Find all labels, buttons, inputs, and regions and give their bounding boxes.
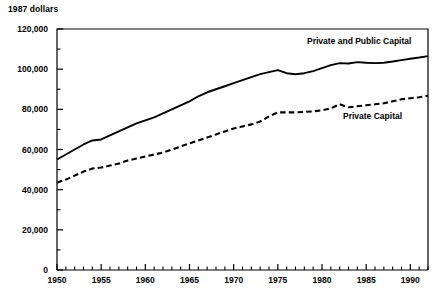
y-tick-label: 20,000	[0, 225, 48, 235]
x-tick-label: 1955	[92, 275, 111, 285]
x-tick-label: 1980	[313, 275, 332, 285]
series-line-private-and-public-capital	[57, 56, 428, 159]
y-tick-label: 0	[0, 265, 48, 275]
x-tick-label: 1975	[268, 275, 287, 285]
y-tick-label: 40,000	[0, 185, 48, 195]
x-tick-label: 1990	[401, 275, 420, 285]
x-tick-label: 1950	[48, 275, 67, 285]
x-tick-label: 1970	[224, 275, 243, 285]
axis-frame	[57, 29, 428, 270]
y-tick-label: 80,000	[0, 104, 48, 114]
chart-container: 1987 dollars 020,00040,00060,00080,00010…	[0, 0, 440, 295]
y-tick-label: 100,000	[0, 64, 48, 74]
series-label-private-capital: Private Capital	[343, 111, 402, 121]
y-axis-major-ticks	[57, 29, 63, 270]
y-tick-label: 60,000	[0, 145, 48, 155]
x-tick-label: 1960	[136, 275, 155, 285]
series-label-private-and-public-capital: Private and Public Capital	[307, 36, 411, 46]
x-tick-label: 1965	[180, 275, 199, 285]
y-tick-label: 120,000	[0, 24, 48, 34]
x-tick-label: 1985	[357, 275, 376, 285]
series-line-private-capital	[57, 96, 428, 183]
plot-frame	[57, 29, 428, 270]
